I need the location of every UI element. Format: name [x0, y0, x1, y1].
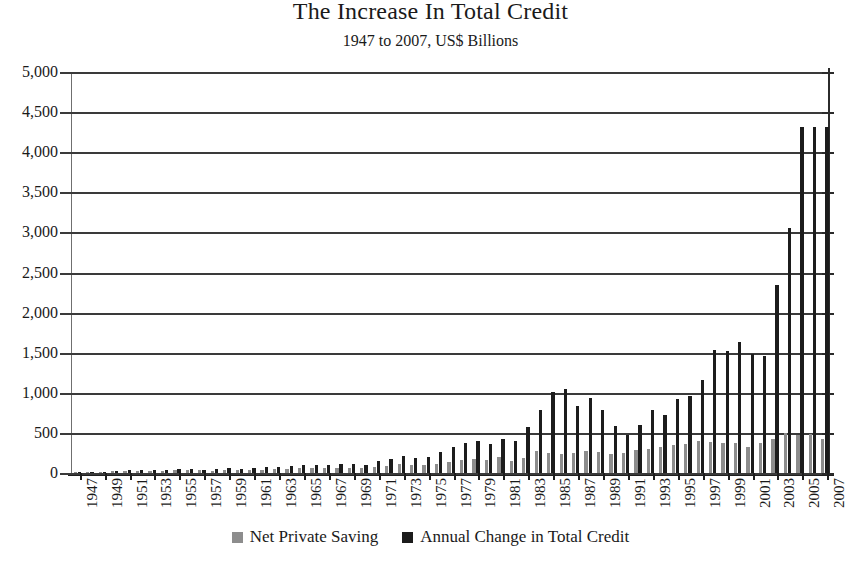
bar-group	[634, 72, 646, 473]
bar-net-private-saving	[697, 441, 700, 473]
bar-group	[410, 72, 422, 473]
bar-net-private-saving	[734, 443, 737, 473]
y-axis-label: 5,000	[22, 63, 58, 81]
bar-group	[161, 72, 173, 473]
bar-annual-change-total-credit	[414, 458, 417, 473]
bar-group	[211, 72, 223, 473]
x-axis-label: 1955	[184, 478, 199, 508]
bar-group	[746, 72, 758, 473]
bar-annual-change-total-credit	[813, 127, 816, 473]
plot-area: 5,0004,5004,0003,5003,0002,5002,0001,500…	[72, 72, 832, 473]
bar-annual-change-total-credit	[788, 228, 791, 473]
x-axis-label: 1957	[209, 478, 224, 508]
x-axis-label: 1969	[359, 478, 374, 508]
bar-group	[111, 72, 123, 473]
bar-annual-change-total-credit	[713, 350, 716, 473]
bar-net-private-saving	[535, 451, 538, 473]
chart-subtitle: 1947 to 2007, US$ Billions	[0, 32, 861, 50]
x-axis-label: 1997	[708, 478, 723, 508]
x-axis-label: 1967	[334, 478, 349, 508]
y-axis-label: 3,500	[22, 183, 58, 201]
bar-annual-change-total-credit	[364, 465, 367, 473]
bar-annual-change-total-credit	[589, 398, 592, 473]
bar-annual-change-total-credit	[389, 459, 392, 473]
bar-group	[709, 72, 721, 473]
bar-net-private-saving	[709, 442, 712, 473]
bar-group	[771, 72, 783, 473]
bar-net-private-saving	[398, 464, 401, 473]
bar-group	[273, 72, 285, 473]
bar-group	[796, 72, 808, 473]
bar-group	[497, 72, 509, 473]
bar-annual-change-total-credit	[626, 435, 629, 473]
legend-swatch-icon	[232, 532, 243, 543]
bar-net-private-saving	[385, 466, 388, 473]
x-axis-label: 2007	[832, 478, 847, 508]
bar-group	[759, 72, 771, 473]
bar-group	[547, 72, 559, 473]
x-axis-label: 1977	[459, 478, 474, 508]
x-axis-label: 1975	[434, 478, 449, 508]
bar-annual-change-total-credit	[427, 457, 430, 473]
y-axis-tick	[60, 192, 72, 194]
bar-group	[298, 72, 310, 473]
bar-annual-change-total-credit	[638, 425, 641, 473]
x-axis-label: 2001	[758, 478, 773, 508]
bar-group	[535, 72, 547, 473]
x-axis-label: 1993	[658, 478, 673, 508]
bar-group	[584, 72, 596, 473]
bar-annual-change-total-credit	[489, 444, 492, 473]
x-axis-label: 1981	[508, 478, 523, 508]
bar-net-private-saving	[796, 435, 799, 473]
bar-annual-change-total-credit	[763, 356, 766, 473]
x-axis-label: 1959	[234, 478, 249, 508]
x-axis-label: 1963	[284, 478, 299, 508]
bar-group	[560, 72, 572, 473]
x-axis-label: 1961	[259, 478, 274, 508]
bar-net-private-saving	[584, 451, 587, 473]
x-axis-label: 1979	[483, 478, 498, 508]
bar-group	[335, 72, 347, 473]
bar-net-private-saving	[497, 457, 500, 473]
y-axis-tick	[60, 393, 72, 395]
bar-group	[522, 72, 534, 473]
x-axis-label: 1973	[409, 478, 424, 508]
bar-group	[74, 72, 86, 473]
bar-annual-change-total-credit	[315, 465, 318, 473]
y-axis-tick	[60, 353, 72, 355]
x-axis-label: 1983	[533, 478, 548, 508]
bar-annual-change-total-credit	[551, 392, 554, 473]
y-axis-label: 2,000	[22, 303, 58, 321]
bar-group	[721, 72, 733, 473]
bar-net-private-saving	[597, 452, 600, 473]
bar-annual-change-total-credit	[402, 456, 405, 473]
bar-group	[510, 72, 522, 473]
bar-annual-change-total-credit	[539, 410, 542, 473]
y-axis-tick	[60, 273, 72, 275]
bar-group	[622, 72, 634, 473]
bar-group	[821, 72, 833, 473]
bar-net-private-saving	[809, 434, 812, 473]
bar-group	[647, 72, 659, 473]
legend-label: Net Private Saving	[250, 527, 378, 547]
bar-net-private-saving	[659, 447, 662, 473]
bar-annual-change-total-credit	[825, 127, 828, 473]
bar-net-private-saving	[721, 443, 724, 473]
legend-swatch-icon	[402, 532, 413, 543]
bar-group	[186, 72, 198, 473]
bar-group	[373, 72, 385, 473]
bar-annual-change-total-credit	[476, 441, 479, 473]
bar-series-container	[72, 72, 832, 473]
x-axis-label: 1971	[384, 478, 399, 508]
chart-legend: Net Private SavingAnnual Change in Total…	[0, 527, 861, 547]
bar-net-private-saving	[821, 439, 824, 473]
x-axis-label: 2005	[807, 478, 822, 508]
bar-annual-change-total-credit	[614, 426, 617, 473]
bar-group	[223, 72, 235, 473]
bar-group	[447, 72, 459, 473]
bar-annual-change-total-credit	[751, 354, 754, 473]
bar-annual-change-total-credit	[651, 410, 654, 473]
bar-net-private-saving	[759, 443, 762, 473]
legend-item: Net Private Saving	[232, 527, 378, 547]
bar-group	[697, 72, 709, 473]
